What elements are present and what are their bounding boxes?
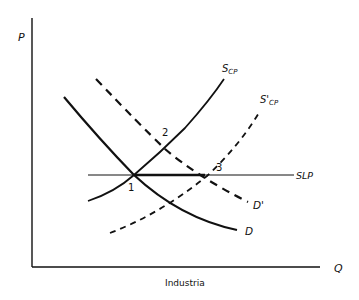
slp-label: SLP xyxy=(296,170,313,181)
industry-equilibrium-diagram: P Q Industria SLP D D' SCP S'CP 1 2 3 xyxy=(0,0,359,300)
point-2-label: 2 xyxy=(162,127,168,138)
x-axis-caption: Industria xyxy=(165,278,205,288)
demand-shifted-label: D' xyxy=(253,199,264,211)
point-1-label: 1 xyxy=(128,182,134,193)
demand-curve xyxy=(64,97,237,230)
demand-label: D xyxy=(245,225,253,237)
supply-cp-shifted-label: S'CP xyxy=(260,94,279,107)
point-3-label: 3 xyxy=(216,162,222,173)
axes xyxy=(32,18,320,267)
x-axis-label: Q xyxy=(334,262,343,275)
supply-cp-label: SCP xyxy=(222,63,238,76)
y-axis-label: P xyxy=(18,31,25,44)
